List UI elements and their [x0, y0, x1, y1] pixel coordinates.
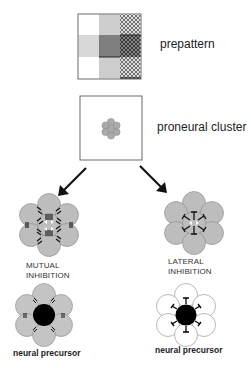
mutual-neural-precursor-label: neural precursor: [13, 348, 81, 358]
lateral-label-line2: INHIBITION: [168, 267, 212, 277]
prepattern-label: prepattern: [160, 37, 215, 51]
mutual-inhibition-cluster: [20, 194, 79, 257]
diagram-canvas: [0, 0, 251, 368]
proneural-cluster-label: proneural cluster: [157, 120, 246, 134]
lateral-inhibition-label: LATERAL INHIBITION: [168, 257, 212, 277]
prepattern-box: [78, 14, 141, 79]
mutual-label-line2: INHIBITION: [26, 271, 70, 281]
arrow-left: [58, 168, 86, 196]
mutual-label-line1: MUTUAL: [26, 261, 70, 271]
precursor-cell: [176, 305, 197, 326]
lateral-neural-precursor-label: neural precursor: [155, 345, 223, 355]
precursor-cell: [33, 304, 55, 326]
lateral-neural-precursor-cluster: [157, 284, 216, 347]
proneural-cluster-box: [80, 96, 142, 160]
mutual-inhibition-label: MUTUAL INHIBITION: [26, 261, 70, 281]
arrow-right: [140, 166, 167, 193]
lateral-label-line1: LATERAL: [168, 257, 212, 267]
mutual-neural-precursor-cluster: [16, 284, 73, 347]
lateral-inhibition-cluster: [165, 192, 224, 255]
